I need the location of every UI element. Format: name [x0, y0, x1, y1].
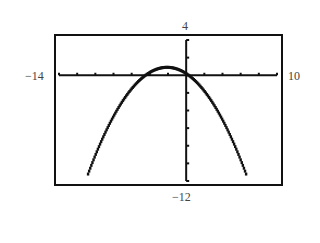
graph-window	[0, 0, 320, 243]
ymin-label: −12	[172, 191, 191, 203]
ymax-label: 4	[182, 20, 188, 32]
parabola-curve	[87, 66, 247, 176]
xmin-label: −14	[25, 70, 44, 82]
axes	[59, 40, 277, 181]
window-frame	[55, 35, 282, 185]
xmax-label: 10	[288, 70, 300, 82]
